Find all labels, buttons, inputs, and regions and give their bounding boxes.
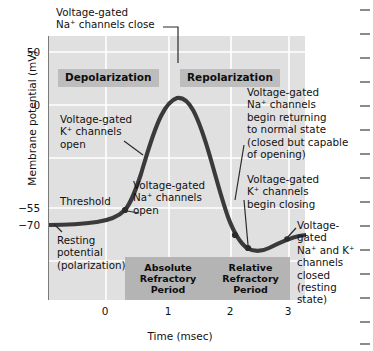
depolarization-text: Depolarization [65, 71, 152, 83]
na-returning-line5: (closed but capable [247, 136, 348, 148]
na-close-line2: Na⁺ channels close [56, 18, 155, 30]
xtick-2: 2 [220, 305, 240, 317]
resting-line1: Resting [57, 234, 126, 246]
na-returning-line6: of opening) [247, 148, 348, 160]
na-returning-line2: Na⁺ channels [247, 98, 348, 110]
both-closed-line2: gated [297, 231, 355, 243]
both-closed-line3: Na⁺ and K⁺ [297, 244, 355, 256]
both-closed-line5: closed [297, 269, 355, 281]
ytick-neg70: −70 [6, 219, 40, 231]
xtick-0-text: 0 [102, 305, 109, 317]
relative-refractory-line1: Relative [229, 262, 273, 273]
annotation-na-channels-open: Voltage-gated Na⁺ channels open [133, 179, 205, 216]
ytick-neg55-text: −55 [18, 202, 40, 214]
na-open-line1: Voltage-gated [133, 179, 205, 191]
annotation-k-begin-closing: Voltage-gated K⁺ channels begin closing [247, 173, 319, 210]
absolute-refractory-period: Absolute Refractory Period [125, 257, 211, 300]
threshold-text: Threshold [60, 195, 111, 207]
annotation-threshold: Threshold [60, 195, 111, 207]
annotation-na-begin-returning: Voltage-gated Na⁺ channels begin returni… [247, 86, 348, 160]
na-returning-line4: to normal state [247, 123, 348, 135]
annotation-k-channels-open: Voltage-gated K⁺ channels open [60, 113, 132, 150]
absolute-refractory-line1: Absolute [144, 262, 191, 273]
annotation-na-channels-close: Voltage-gated Na⁺ channels close [56, 6, 155, 31]
k-closing-line1: Voltage-gated [247, 173, 319, 185]
ytick-neg70-text: −70 [18, 219, 40, 231]
ytick-neg55: −55 [6, 202, 40, 214]
y-axis-label-text: Membrane potential (mV) [26, 50, 38, 185]
both-closed-line4: channels [297, 256, 355, 268]
relative-refractory-line2: Refractory [222, 273, 279, 284]
repolarization-text: Repolarization [187, 71, 273, 83]
k-open-line3: open [60, 138, 132, 150]
both-closed-line7: state) [297, 293, 355, 305]
na-returning-marker [232, 232, 238, 238]
na-open-line2: Na⁺ channels [133, 191, 205, 203]
xtick-0: 0 [95, 305, 115, 317]
k-closing-marker [245, 245, 251, 251]
resting-line3: (polarization) [57, 259, 126, 271]
phase-label-repolarization: Repolarization [180, 69, 280, 87]
k-closing-line3: begin closing [247, 198, 319, 210]
na-close-line1: Voltage-gated [56, 6, 155, 18]
x-axis-label: Time (msec) [120, 330, 240, 342]
x-axis-label-text: Time (msec) [147, 330, 212, 342]
na-returning-line3: begin returning [247, 111, 348, 123]
xtick-3-text: 3 [285, 305, 292, 317]
na-returning-line1: Voltage-gated [247, 86, 348, 98]
na-open-line3: open [133, 204, 205, 216]
annotation-both-channels-closed: Voltage- gated Na⁺ and K⁺ channels close… [297, 219, 355, 306]
absolute-refractory-line2: Refractory [140, 273, 197, 284]
relative-refractory-line3: Period [233, 284, 268, 295]
xtick-3: 3 [278, 305, 298, 317]
both-closed-line6: (resting [297, 281, 355, 293]
refractory-period-band: Absolute Refractory Period Relative Refr… [125, 257, 290, 300]
both-closed-line1: Voltage- [297, 219, 355, 231]
threshold-marker [122, 207, 128, 213]
k-closing-line2: K⁺ channels [247, 185, 319, 197]
annotation-resting-potential: Resting potential (polarization) [57, 234, 126, 271]
xtick-1: 1 [158, 305, 178, 317]
action-potential-figure: Depolarization Repolarization Absolute R… [0, 0, 373, 351]
absolute-refractory-line3: Period [151, 284, 186, 295]
relative-refractory-period: Relative Refractory Period [211, 257, 290, 300]
resting-line2: potential [57, 246, 126, 258]
y-axis-label: Membrane potential (mV) [26, 38, 38, 198]
k-open-line2: K⁺ channels [60, 125, 132, 137]
k-open-line1: Voltage-gated [60, 113, 132, 125]
xtick-1-text: 1 [165, 305, 172, 317]
scan-edge-marks [358, 0, 372, 351]
phase-label-depolarization: Depolarization [58, 69, 159, 87]
xtick-2-text: 2 [227, 305, 234, 317]
